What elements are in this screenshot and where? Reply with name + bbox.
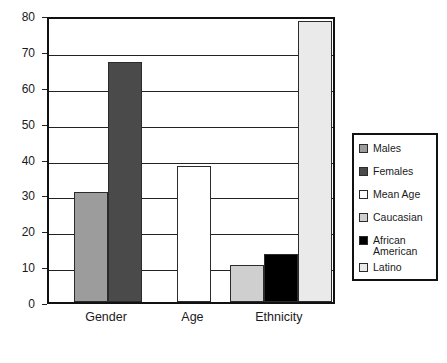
legend-item[interactable]: AfricanAmerican <box>359 235 417 257</box>
y-tick-label: 80 <box>22 11 35 23</box>
gridline <box>49 163 333 164</box>
bar-chart: 01020304050607080 GenderAgeEthnicity Mal… <box>0 0 447 363</box>
bar <box>177 166 211 302</box>
bar <box>230 265 264 302</box>
legend-swatch-icon <box>359 190 368 199</box>
bar <box>264 254 298 302</box>
y-tick-label: 30 <box>22 190 35 202</box>
legend-label: Caucasian <box>373 212 423 223</box>
x-tick-label: Ethnicity <box>255 310 302 324</box>
legend-item[interactable]: Mean Age <box>359 189 420 200</box>
bar <box>74 192 108 302</box>
y-tick-label: 0 <box>28 298 35 310</box>
y-tick-label: 40 <box>22 155 35 167</box>
chart-legend: MalesFemalesMean AgeCaucasianAfricanAmer… <box>352 133 438 281</box>
y-tick-label: 50 <box>22 119 35 131</box>
y-tick-label: 10 <box>22 262 35 274</box>
legend-item[interactable]: Females <box>359 166 413 177</box>
y-tick-label: 60 <box>22 83 35 95</box>
gridline <box>49 91 333 92</box>
legend-swatch-icon <box>359 144 368 153</box>
legend-item[interactable]: Latino <box>359 262 402 273</box>
bar <box>108 62 142 302</box>
gridline <box>49 55 333 56</box>
y-tick-mark <box>42 304 47 305</box>
legend-swatch-icon <box>359 263 368 272</box>
legend-swatch-icon <box>359 213 368 222</box>
gridline <box>49 127 333 128</box>
legend-label: Mean Age <box>373 189 420 200</box>
plot-area <box>47 17 335 304</box>
legend-label: AfricanAmerican <box>373 235 417 257</box>
x-tick-label: Age <box>181 310 203 324</box>
y-axis: 01020304050607080 <box>0 0 45 363</box>
legend-label: Latino <box>373 262 402 273</box>
x-axis: GenderAgeEthnicity <box>47 310 335 330</box>
bar <box>298 21 332 302</box>
legend-label: Females <box>373 166 413 177</box>
legend-swatch-icon <box>359 236 368 245</box>
legend-item[interactable]: Caucasian <box>359 212 423 223</box>
x-tick-label: Gender <box>85 310 127 324</box>
legend-swatch-icon <box>359 167 368 176</box>
legend-label: Males <box>373 143 401 154</box>
legend-item[interactable]: Males <box>359 143 401 154</box>
y-tick-label: 70 <box>22 47 35 59</box>
y-tick-label: 20 <box>22 226 35 238</box>
